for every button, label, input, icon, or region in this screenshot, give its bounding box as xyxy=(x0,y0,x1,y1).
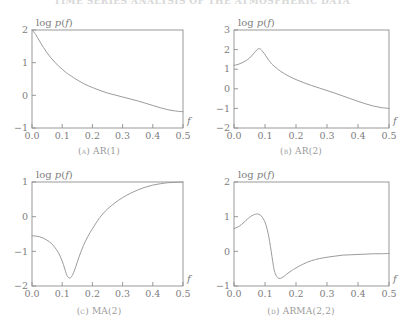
caption-b: (b) AR(2) xyxy=(198,146,404,156)
y-tick-label: 1 xyxy=(22,57,28,68)
x-tick-label: 0.1 xyxy=(257,130,272,141)
x-tick-label: 0.2 xyxy=(85,288,100,299)
x-axis-label: f xyxy=(392,115,399,126)
x-tick-label: 0.1 xyxy=(55,130,70,141)
running-head: TIME SERIES ANALYSIS OF THE ATMOSPHERIC … xyxy=(0,0,404,5)
plot-frame xyxy=(32,30,183,128)
y-tick-label: −1 xyxy=(14,246,28,257)
x-tick-label: 0.3 xyxy=(319,288,334,299)
x-tick-label: 0.5 xyxy=(175,130,190,141)
y-tick-label: 2 xyxy=(22,24,28,35)
plot-frame xyxy=(234,30,389,128)
x-tick-label: 0.0 xyxy=(24,288,39,299)
y-axis-label-close: ) xyxy=(69,17,73,28)
x-tick-label: 0.2 xyxy=(288,288,303,299)
x-tick-label: 0.0 xyxy=(226,130,241,141)
plot-c: 10−1−20.00.10.20.30.40.5log p(f)f xyxy=(0,160,198,322)
y-axis-label: log p(f) xyxy=(238,17,275,28)
data-curve xyxy=(234,49,389,109)
y-axis-label: log p(f) xyxy=(36,17,73,28)
panel-a: 210−10.00.10.20.30.40.5log p(f)f (a) AR(… xyxy=(0,8,198,160)
x-tick-label: 0.0 xyxy=(226,288,241,299)
y-axis-label: log p(f) xyxy=(36,169,73,180)
x-tick-label: 0.1 xyxy=(257,288,272,299)
y-tick-label: 1 xyxy=(224,63,230,74)
plot-d: 210−10.00.10.20.30.40.5log p(f)f xyxy=(198,160,404,322)
caption-c: (c) MA(2) xyxy=(0,306,198,316)
x-tick-label: 0.4 xyxy=(145,288,160,299)
y-axis-label-log: log xyxy=(36,169,55,180)
x-axis-label: f xyxy=(186,273,193,284)
x-tick-label: 0.5 xyxy=(381,130,396,141)
data-curve xyxy=(32,30,183,112)
y-tick-label: 2 xyxy=(224,176,230,187)
plot-frame xyxy=(234,182,389,286)
y-axis-label: log p(f) xyxy=(238,169,275,180)
y-tick-label: 0 xyxy=(224,246,230,257)
y-tick-label: 1 xyxy=(224,211,230,222)
caption-a: (a) AR(1) xyxy=(0,146,198,156)
y-axis-label-close: ) xyxy=(271,169,275,180)
panel-b: 3210−1−20.00.10.20.30.40.5log p(f)f (b) … xyxy=(198,8,404,160)
plot-b: 3210−1−20.00.10.20.30.40.5log p(f)f xyxy=(198,8,404,160)
y-tick-label: 0 xyxy=(22,211,28,222)
data-curve xyxy=(234,214,389,279)
y-axis-label-close: ) xyxy=(69,169,73,180)
y-tick-label: 0 xyxy=(224,83,230,94)
plot-a-svg: 210−10.00.10.20.30.40.5log p(f)f xyxy=(0,8,198,160)
x-tick-label: 0.2 xyxy=(288,130,303,141)
plot-d-svg: 210−10.00.10.20.30.40.5log p(f)f xyxy=(198,160,404,322)
x-tick-label: 0.3 xyxy=(115,288,130,299)
x-tick-label: 0.5 xyxy=(381,288,396,299)
x-tick-label: 0.1 xyxy=(55,288,70,299)
x-tick-label: 0.4 xyxy=(350,130,365,141)
x-tick-label: 0.5 xyxy=(175,288,190,299)
plot-c-svg: 10−1−20.00.10.20.30.40.5log p(f)f xyxy=(0,160,198,322)
y-tick-label: −1 xyxy=(216,103,230,114)
plot-a: 210−10.00.10.20.30.40.5log p(f)f xyxy=(0,8,198,160)
x-tick-label: 0.0 xyxy=(24,130,39,141)
figure-panel-grid: 210−10.00.10.20.30.40.5log p(f)f (a) AR(… xyxy=(0,8,404,322)
caption-d: (d) ARMA(2,2) xyxy=(198,306,404,316)
y-tick-label: 2 xyxy=(224,44,230,55)
y-axis-label-log: log xyxy=(238,17,257,28)
x-tick-label: 0.4 xyxy=(350,288,365,299)
x-axis-label: f xyxy=(186,115,193,126)
x-axis-label: f xyxy=(392,273,399,284)
data-curve xyxy=(32,182,183,278)
x-tick-label: 0.2 xyxy=(85,130,100,141)
y-tick-label: 0 xyxy=(22,90,28,101)
y-tick-label: 1 xyxy=(22,176,28,187)
plot-b-svg: 3210−1−20.00.10.20.30.40.5log p(f)f xyxy=(198,8,404,160)
y-axis-label-close: ) xyxy=(271,17,275,28)
x-tick-label: 0.3 xyxy=(319,130,334,141)
plot-frame xyxy=(32,182,183,286)
x-tick-label: 0.3 xyxy=(115,130,130,141)
y-axis-label-log: log xyxy=(238,169,257,180)
panel-c: 10−1−20.00.10.20.30.40.5log p(f)f (c) MA… xyxy=(0,160,198,322)
panel-d: 210−10.00.10.20.30.40.5log p(f)f (d) ARM… xyxy=(198,160,404,322)
y-tick-label: 3 xyxy=(224,24,230,35)
x-tick-label: 0.4 xyxy=(145,130,160,141)
y-axis-label-log: log xyxy=(36,17,55,28)
